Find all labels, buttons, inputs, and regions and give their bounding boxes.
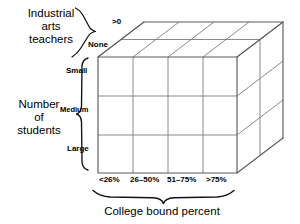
vertical-axis-title-line3: students bbox=[2, 124, 76, 137]
depth-tick-none: None bbox=[88, 41, 108, 50]
cube-right-face bbox=[237, 40, 283, 156]
factorial-design-figure: Industrial arts teachers >0 None Number … bbox=[0, 0, 300, 224]
depth-axis-title: Industrial arts teachers bbox=[8, 7, 94, 46]
horizontal-tick-2: 26–50% bbox=[130, 176, 159, 185]
horizontal-axis-brace bbox=[93, 191, 234, 204]
cube-front-face-grid bbox=[98, 57, 237, 173]
depth-tick-gt0: >0 bbox=[112, 18, 121, 27]
vertical-tick-large: Large bbox=[67, 145, 89, 154]
horizontal-axis-title: College bound percent bbox=[76, 205, 248, 218]
depth-axis-title-line1: Industrial bbox=[8, 7, 94, 20]
cube-top-face bbox=[98, 22, 283, 57]
vertical-tick-medium: Medium bbox=[60, 106, 88, 114]
cube-outline bbox=[98, 22, 283, 173]
horizontal-tick-4: >75% bbox=[206, 176, 227, 185]
depth-axis-title-line2: arts bbox=[8, 20, 94, 33]
horizontal-tick-1: <26% bbox=[99, 176, 120, 185]
vertical-axis-title: Number of students bbox=[2, 98, 76, 137]
depth-axis-title-line3: teachers bbox=[8, 33, 94, 46]
horizontal-tick-3: 51–75% bbox=[167, 176, 196, 185]
vertical-tick-small: Small bbox=[66, 67, 87, 76]
